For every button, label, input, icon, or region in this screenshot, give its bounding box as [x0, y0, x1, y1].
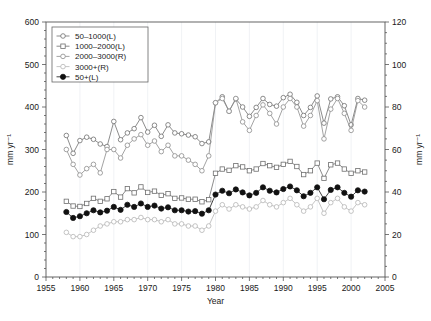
y-axis-right: 020406080100120mm yr⁻¹	[385, 17, 424, 282]
x-tick-label: 1975	[172, 283, 191, 293]
legend-marker-open-circle	[61, 64, 66, 69]
series-marker	[118, 219, 123, 224]
x-tick-label: 1995	[308, 283, 327, 293]
series-marker	[281, 162, 285, 166]
series-marker	[132, 126, 137, 131]
series-marker	[105, 197, 109, 201]
series-marker	[166, 192, 170, 196]
x-tick-label: 2000	[342, 283, 361, 293]
series-marker	[234, 202, 239, 207]
series-marker	[226, 191, 231, 196]
series-marker	[281, 186, 286, 191]
series-marker	[152, 123, 157, 128]
series-marker	[186, 197, 190, 201]
series-marker	[145, 143, 150, 148]
series-marker	[335, 96, 340, 101]
series-marker	[152, 139, 157, 144]
series-marker	[240, 165, 244, 169]
series-marker	[139, 115, 144, 120]
series-marker	[206, 208, 211, 213]
x-tick-label: 2005	[376, 283, 395, 293]
series-marker	[349, 194, 354, 199]
series-marker	[328, 187, 333, 192]
series-marker	[199, 211, 204, 216]
series-marker	[315, 185, 320, 190]
series-marker	[274, 190, 279, 195]
series-marker	[281, 105, 286, 110]
series-marker	[322, 211, 327, 216]
legend-marker-open-circle	[61, 54, 66, 59]
series-marker	[281, 200, 286, 205]
series-marker	[179, 154, 184, 159]
y-axis-left-title: mm yr⁻¹	[5, 134, 15, 165]
series-marker	[329, 163, 333, 167]
series-marker	[301, 172, 305, 176]
series-marker	[186, 133, 191, 138]
y-tick-label-right: 20	[392, 230, 402, 240]
series-marker	[91, 208, 96, 213]
series-marker	[268, 163, 272, 167]
y-tick-label-right: 60	[392, 145, 402, 155]
y-tick-label-left: 200	[25, 187, 39, 197]
legend: 50–1000(L)1000–2000(L)2000–3000(R)3000+(…	[52, 27, 148, 82]
legend-label-5: 50+(L)	[75, 73, 99, 82]
series-marker	[173, 154, 178, 159]
series-marker	[200, 228, 205, 233]
y-tick-label-left: 600	[25, 17, 39, 27]
series-marker	[213, 171, 217, 175]
series-marker	[206, 154, 211, 159]
x-tick-label: 1970	[138, 283, 157, 293]
series-marker	[213, 192, 218, 197]
series-marker	[315, 196, 320, 201]
y-tick-label-left: 100	[25, 230, 39, 240]
series-marker	[64, 147, 69, 152]
series-marker	[118, 156, 123, 161]
series-marker	[71, 162, 76, 167]
y-axis-right-title: mm yr⁻¹	[414, 134, 424, 165]
series-marker	[335, 185, 340, 190]
series-marker	[84, 211, 89, 216]
series-marker	[234, 163, 238, 167]
series-marker	[267, 202, 272, 207]
series-marker	[322, 121, 327, 126]
series-marker	[132, 191, 136, 195]
series-marker	[166, 123, 171, 128]
series-marker	[112, 147, 117, 152]
series-marker	[125, 131, 130, 136]
series-marker	[233, 187, 238, 192]
series-marker	[145, 130, 150, 135]
series-marker	[220, 96, 225, 101]
series-marker	[247, 169, 251, 173]
series-marker	[349, 171, 353, 175]
series-marker	[308, 169, 312, 173]
series-marker	[200, 141, 205, 146]
series-marker	[227, 207, 232, 212]
series-marker	[362, 105, 367, 110]
x-tick-label: 1960	[70, 283, 89, 293]
series-marker	[220, 188, 225, 193]
series-marker	[138, 201, 143, 206]
series-marker	[125, 186, 129, 190]
series-marker	[287, 184, 292, 189]
y-tick-label-left: 500	[25, 60, 39, 70]
series-marker	[342, 205, 347, 210]
series-marker	[315, 98, 320, 103]
series-marker	[78, 173, 83, 178]
series-marker	[247, 128, 252, 133]
series-marker	[111, 204, 116, 209]
series-marker	[261, 161, 265, 165]
series-marker	[193, 134, 198, 139]
series-marker	[159, 193, 163, 197]
y-axis-left: 0100200300400500600mm yr⁻¹	[5, 17, 46, 282]
series-marker	[261, 198, 266, 203]
series-marker	[288, 96, 293, 101]
chart-figure: 1955196019651970197519801985199019952000…	[0, 0, 431, 321]
series-marker	[98, 142, 103, 147]
series-marker	[125, 202, 130, 207]
x-tick-label: 1955	[37, 283, 56, 293]
series-marker	[240, 105, 245, 110]
series-marker	[322, 137, 327, 142]
series-marker	[328, 97, 333, 102]
y-tick-label-left: 400	[25, 102, 39, 112]
series-marker	[247, 193, 252, 198]
